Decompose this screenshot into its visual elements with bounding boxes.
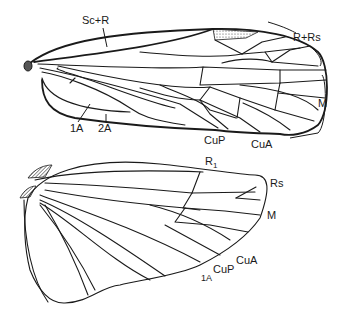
label-cup: CuP (204, 134, 225, 146)
label-cua: CuA (251, 138, 273, 150)
vein-sc-r (34, 29, 213, 62)
vein-1a (42, 72, 185, 125)
vein-m (38, 64, 326, 70)
bracket-r-rs (268, 22, 296, 33)
vein-rs-hind (45, 183, 255, 193)
label-r-rs: R+Rs (293, 31, 321, 43)
forewing (24, 29, 327, 135)
label-cua-hind: CuA (236, 254, 258, 266)
label-2a: 2A (98, 122, 112, 134)
vein-2a (42, 78, 130, 112)
vein-m-hind (45, 190, 260, 215)
forewing-costal-margin (30, 29, 327, 135)
hindwing (20, 162, 267, 303)
label-sc-r: Sc+R (82, 14, 109, 26)
vein-cua-hind (40, 195, 200, 262)
label-r1: R1 (205, 155, 218, 170)
label-m-hind: M (267, 209, 276, 221)
vein-1a-hind (40, 203, 150, 280)
label-1a-hind: 1A (201, 273, 212, 283)
wing-venation-diagram: Sc+R R+Rs M CuP CuA 1A 2A (0, 0, 346, 319)
label-rs: Rs (270, 177, 284, 189)
vein-cup-hind (40, 200, 165, 276)
hindwing-base-sclerite (28, 165, 52, 178)
label-1a: 1A (70, 122, 84, 134)
label-cup-hind: CuP (213, 263, 234, 275)
forewing-base-sclerite (24, 61, 32, 71)
vein-rs (140, 52, 242, 56)
